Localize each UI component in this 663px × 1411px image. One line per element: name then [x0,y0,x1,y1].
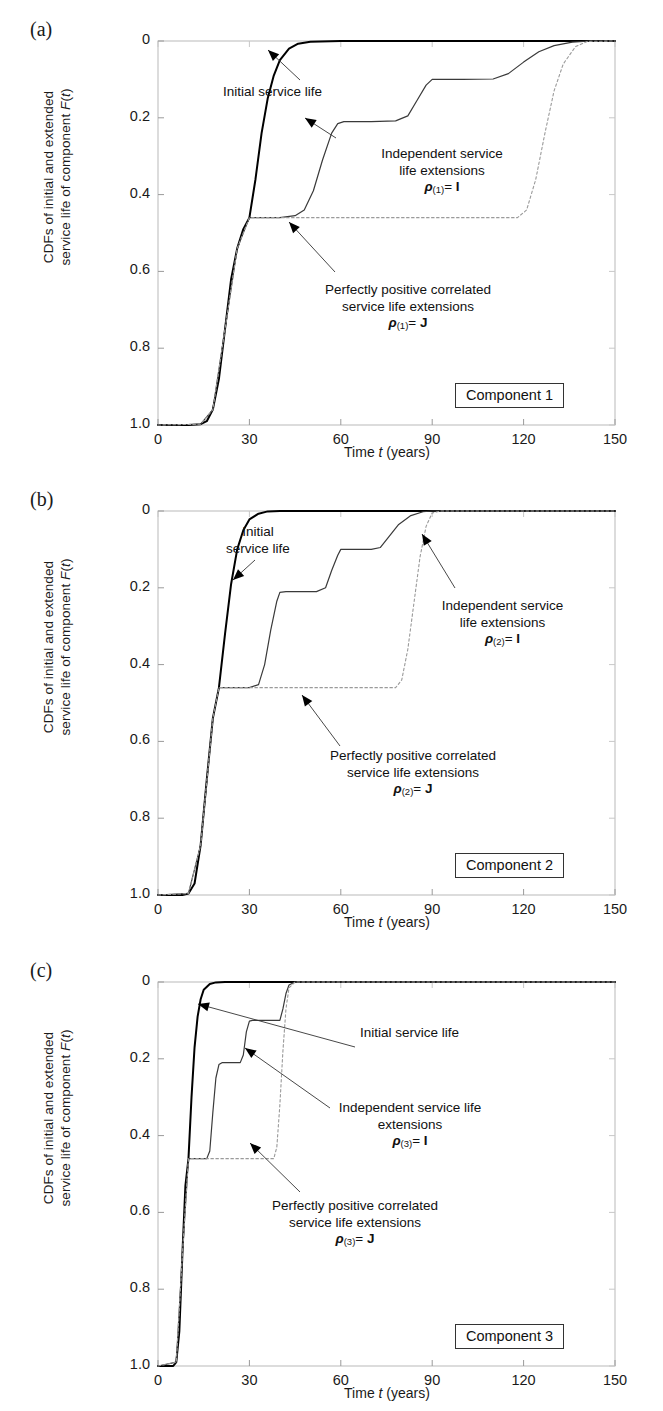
x-tick-label: 30 [227,431,271,447]
annotation-line: Independent service [410,598,595,615]
y-tick-label: 0.4 [106,1126,150,1142]
x-tick-label: 60 [319,901,363,917]
annotation-perfectly-correlated-extensions: Perfectly positive correlatedservice lif… [278,282,538,335]
annotation-arrowhead [245,1048,257,1058]
x-tick-label: 0 [136,1372,180,1388]
series-line [158,511,615,895]
panel-a: (a) CDFs of initial and extended service… [0,0,663,470]
y-tick-label: 0.2 [106,1049,150,1065]
x-tick-label: 60 [319,431,363,447]
annotation-line: Independent service [347,146,537,163]
annotation-arrowhead [302,695,312,707]
annotation-initial-service-life: Initialservice life [198,524,318,557]
component-label-box: Component 1 [455,383,564,408]
series-line [158,511,615,895]
y-tick-label: 1.0 [106,415,150,431]
y-tick-label: 0.6 [106,731,150,747]
component-label-box: Component 3 [455,1324,564,1349]
x-tick-label: 30 [227,1372,271,1388]
annotation-perfectly-correlated-extensions: Perfectly positive correlatedservice lif… [205,1198,505,1251]
panel-b: (b) CDFs of initial and extended service… [0,470,663,940]
annotation-correlation-matrix: ρ(1)= J [278,315,538,335]
annotation-correlation-matrix: ρ(3)= J [205,1231,505,1251]
y-tick-label: 0.4 [106,655,150,671]
y-tick-label: 1.0 [106,885,150,901]
annotation-line: life extensions [410,615,595,632]
x-tick-label: 150 [593,1372,637,1388]
y-tick-label: 0.6 [106,261,150,277]
component-label-box: Component 2 [455,853,564,878]
annotation-initial-service-life: Initial service life [185,84,360,101]
x-tick-label: 90 [410,1372,454,1388]
annotation-line: service life extensions [283,765,543,782]
x-tick-label: 60 [319,1372,363,1388]
y-tick-label: 0.6 [106,1202,150,1218]
annotation-correlation-matrix: ρ(1)= I [347,179,537,199]
annotation-arrowhead [422,534,432,546]
x-tick-label: 120 [502,431,546,447]
y-tick-label: 0 [106,501,150,517]
x-tick-label: 30 [227,901,271,917]
x-tick-label: 0 [136,431,180,447]
y-tick-label: 0 [106,972,150,988]
y-tick-label: 0.8 [106,808,150,824]
annotation-line: service life extensions [205,1215,505,1232]
annotation-line: Perfectly positive correlated [278,282,538,299]
annotation-line: service life extensions [278,299,538,316]
panel-c: (c) CDFs of initial and extended service… [0,941,663,1411]
x-tick-label: 150 [593,901,637,917]
y-tick-label: 0.2 [106,108,150,124]
annotation-line: life extensions [347,163,537,180]
annotation-line: service life [198,541,318,558]
x-tick-label: 90 [410,901,454,917]
x-tick-label: 150 [593,431,637,447]
y-tick-label: 0.8 [106,1279,150,1295]
annotation-correlation-matrix: ρ(3)= I [295,1133,525,1153]
annotation-line: Perfectly positive correlated [283,748,543,765]
figure-cdf-service-life: (a) CDFs of initial and extended service… [0,0,663,1411]
annotation-arrowhead [305,118,317,128]
annotation-line: Initial [198,524,318,541]
y-tick-label: 0.8 [106,338,150,354]
annotation-line: Initial service life [322,1025,497,1042]
figure-caption-partial [0,1399,663,1411]
annotation-line: Independent service life [295,1100,525,1117]
annotation-correlation-matrix: ρ(2)= I [410,631,595,651]
y-tick-label: 0.2 [106,578,150,594]
annotation-perfectly-correlated-extensions: Perfectly positive correlatedservice lif… [283,748,543,801]
x-tick-label: 120 [502,901,546,917]
annotation-independent-extensions: Independent servicelife extensionsρ(1)= … [347,146,537,199]
annotation-independent-extensions: Independent servicelife extensionsρ(2)= … [410,598,595,651]
y-tick-label: 1.0 [106,1356,150,1372]
x-tick-label: 90 [410,431,454,447]
x-tick-label: 120 [502,1372,546,1388]
series-line [158,511,615,895]
annotation-correlation-matrix: ρ(2)= J [283,781,543,801]
annotation-initial-service-life: Initial service life [322,1025,497,1042]
annotation-line: extensions [295,1117,525,1134]
annotation-line: Initial service life [185,84,360,101]
annotation-line: Perfectly positive correlated [205,1198,505,1215]
y-tick-label: 0.4 [106,185,150,201]
annotation-independent-extensions: Independent service lifeextensionsρ(3)= … [295,1100,525,1153]
x-tick-label: 0 [136,901,180,917]
y-tick-label: 0 [106,31,150,47]
